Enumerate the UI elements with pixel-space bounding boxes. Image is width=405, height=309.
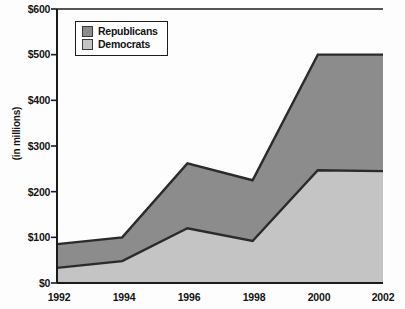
stacked-area-chart: (in millions) $600 $500 $400 $300 $200 $… [0,0,405,309]
series-layer [57,55,383,283]
legend-label-republicans: Republicans [98,26,158,37]
legend-item-democrats: Democrats [82,38,158,51]
legend-swatch-republicans [82,26,93,37]
legend-item-republicans: Republicans [82,25,158,38]
plot-area [0,0,405,309]
legend-swatch-democrats [82,39,93,50]
legend-label-democrats: Democrats [98,39,150,50]
chart-legend: Republicans Democrats [75,21,168,56]
